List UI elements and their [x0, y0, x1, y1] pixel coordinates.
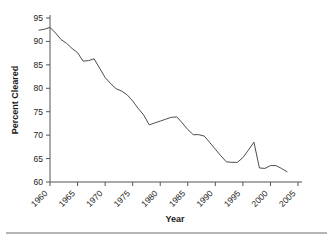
y-axis-ticks: 6065707580859095: [34, 13, 50, 187]
y-tick-label: 90: [34, 36, 44, 46]
x-axis-title: Year: [165, 214, 185, 224]
x-tick-label: 1995: [222, 188, 243, 209]
line-chart-figure: Percent Cleared Year 6065707580859095 19…: [0, 0, 333, 238]
y-tick-label: 70: [34, 130, 44, 140]
x-axis-ticks: 1960196519701975198019851990199520002005: [29, 182, 298, 209]
y-tick-label: 60: [34, 177, 44, 187]
y-tick-label: 65: [34, 154, 44, 164]
data-series-line: [39, 27, 287, 171]
x-tick-label: 1990: [194, 188, 215, 209]
x-tick-label: 1980: [139, 188, 160, 209]
y-tick-label: 75: [34, 107, 44, 117]
x-tick-label: 1970: [84, 188, 105, 209]
y-tick-label: 80: [34, 83, 44, 93]
y-tick-label: 95: [34, 13, 44, 23]
x-tick-label: 2005: [277, 188, 298, 209]
x-tick-label: 2000: [249, 188, 270, 209]
y-tick-label: 85: [34, 60, 44, 70]
x-tick-label: 1975: [112, 188, 133, 209]
x-tick-label: 1985: [167, 188, 188, 209]
x-tick-label: 1960: [29, 188, 50, 209]
x-tick-label: 1965: [57, 188, 78, 209]
y-axis-title: Percent Cleared: [10, 66, 20, 135]
